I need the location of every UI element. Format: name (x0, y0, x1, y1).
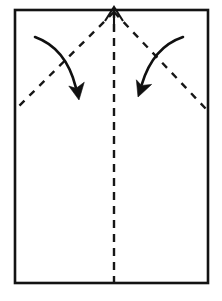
paper-sheet-fill (15, 10, 208, 283)
origami-diagram-container (0, 0, 222, 301)
fold-diagram-canvas (0, 0, 222, 301)
